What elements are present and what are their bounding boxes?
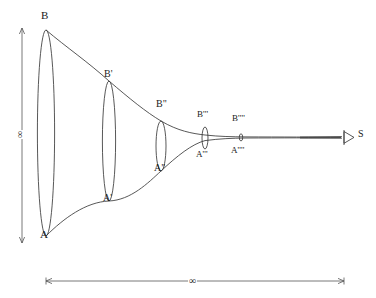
cross-section-ellipses [37,30,242,236]
horizontal-axis-infinity-label: ∞ [188,275,197,286]
point-label-b-triple-prime: B''' [197,110,208,119]
diagram-canvas [0,0,376,298]
point-label-b: B [41,10,48,21]
figure-container: B A B' A' B" A" B''' A''' B'''' A'''' S … [0,0,376,298]
point-label-b-double-prime: B" [156,99,167,109]
cross-section-ellipse-4 [239,134,242,141]
point-label-a-triple-prime: A''' [196,150,208,159]
point-label-a-quadruple-prime: A'''' [231,146,245,155]
apex-label-s: S [358,129,364,139]
point-label-b-quadruple-prime: B'''' [232,114,245,123]
horn-envelope-group [46,30,341,236]
point-label-a-double-prime: A" [154,163,166,173]
cross-section-ellipse-1 [102,81,115,201]
point-label-a: A [40,229,48,240]
lower-envelope-curve [46,138,341,236]
point-label-b-prime: B' [104,69,113,79]
point-label-a-prime: A' [103,193,112,203]
cross-section-ellipse-0 [37,30,54,236]
cross-section-ellipse-3 [202,127,208,149]
apex-arrowhead-icon [344,132,354,144]
upper-envelope-curve [46,30,341,137]
vertical-axis-infinity-label: ∞ [14,130,25,139]
tail-line-upper [300,137,342,138]
apex-arrowhead-group [344,130,354,145]
